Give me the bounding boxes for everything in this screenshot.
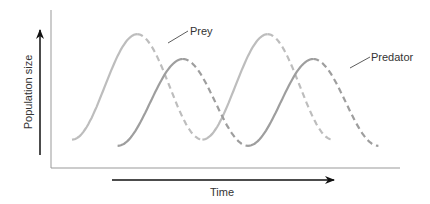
prey-label: Prey [190,25,213,37]
prey-fall-1 [137,34,202,139]
prey-leader-line [168,31,188,43]
predator-rise-2 [248,59,313,146]
predator-prey-chart: Population sizeTimePreyPredator [0,0,430,204]
predator-rise-1 [118,59,183,146]
predator-label: Predator [371,51,414,63]
prey-fall-2 [268,34,333,139]
x-axis-label: Time [210,186,234,198]
prey-rise-2 [202,34,267,139]
prey-rise-1 [72,34,137,139]
predator-leader-line [350,57,370,68]
y-axis-label: Population size [22,55,34,130]
